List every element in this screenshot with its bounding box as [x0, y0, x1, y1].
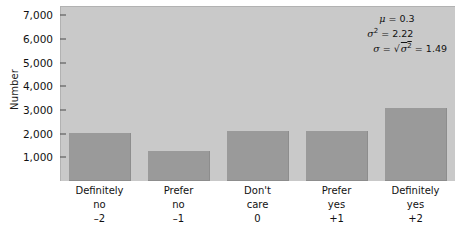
x-tick-label: Definitelyno–2 — [60, 184, 139, 227]
y-tick-label: 4,000 — [23, 80, 60, 92]
statistics-annotation: μ = 0.3 σ2 = 2.22 σ = √σ2 = 1.49 — [365, 12, 447, 56]
mean-value: 0.3 — [399, 13, 414, 24]
x-tick-label-line: –2 — [60, 212, 139, 226]
stat-mean: μ = 0.3 — [365, 12, 447, 26]
x-tick-label-line: +2 — [376, 212, 455, 226]
y-tick-label: 5,000 — [23, 57, 60, 69]
y-tick-label: 2,000 — [23, 128, 60, 140]
y-tick-label: 7,000 — [23, 9, 60, 21]
x-tick-label: Don'tcare0 — [218, 184, 297, 227]
y-tick-mark — [60, 133, 66, 134]
x-tick-label-line: no — [139, 198, 218, 212]
sigma-radical-exponent: 2 — [407, 42, 411, 50]
x-tick-label-line: Definitely — [60, 184, 139, 198]
x-axis-labels: Definitelyno–2Preferno–1Don'tcare0Prefer… — [60, 184, 455, 232]
x-tick-label-line: 0 — [218, 212, 297, 226]
x-tick-label-line: Don't — [218, 184, 297, 198]
x-tick-label: Preferno–1 — [139, 184, 218, 227]
y-tick-mark — [60, 15, 66, 16]
bar-chart-figure: Number 1,0002,0003,0004,0005,0006,0007,0… — [0, 0, 463, 232]
x-tick-label-line: Definitely — [376, 184, 455, 198]
x-tick-label-line: no — [60, 198, 139, 212]
x-tick-label-line: care — [218, 198, 297, 212]
y-tick-label: 1,000 — [23, 151, 60, 163]
x-tick-label-line: –1 — [139, 212, 218, 226]
x-tick-label-line: Prefer — [297, 184, 376, 198]
y-tick-mark — [60, 110, 66, 111]
mu-symbol: μ — [379, 13, 385, 24]
bar — [227, 131, 289, 181]
variance-value: 2.22 — [392, 28, 413, 39]
x-tick-label: Preferyes+1 — [297, 184, 376, 227]
bar — [69, 133, 131, 181]
mean-eq: = — [388, 13, 396, 24]
sd-value: 1.49 — [426, 43, 447, 54]
bar — [385, 108, 447, 181]
bar — [306, 131, 368, 181]
stat-standard-deviation: σ = √σ2 = 1.49 — [365, 41, 447, 56]
x-tick-label-line: yes — [376, 198, 455, 212]
sigma-symbol-sd: σ — [373, 43, 380, 54]
y-tick-mark — [60, 86, 66, 87]
y-tick-mark — [60, 157, 66, 158]
y-axis-title: Number — [9, 50, 20, 130]
x-tick-label: Definitelyyes+2 — [376, 184, 455, 227]
y-tick-label: 6,000 — [23, 33, 60, 45]
x-tick-label-line: yes — [297, 198, 376, 212]
y-tick-mark — [60, 62, 66, 63]
bar — [148, 151, 210, 181]
sqrt-icon: √ — [394, 43, 400, 54]
variance-eq: = — [381, 28, 389, 39]
sigma-exponent: 2 — [374, 27, 378, 35]
sd-eq-2: = — [415, 43, 423, 54]
y-tick-mark — [60, 39, 66, 40]
stat-variance: σ2 = 2.22 — [365, 26, 447, 41]
y-tick-label: 3,000 — [23, 104, 60, 116]
plot-area: 1,0002,0003,0004,0005,0006,0007,000 μ = … — [60, 6, 455, 181]
sd-eq-1: = — [383, 43, 391, 54]
x-tick-label-line: +1 — [297, 212, 376, 226]
x-tick-label-line: Prefer — [139, 184, 218, 198]
